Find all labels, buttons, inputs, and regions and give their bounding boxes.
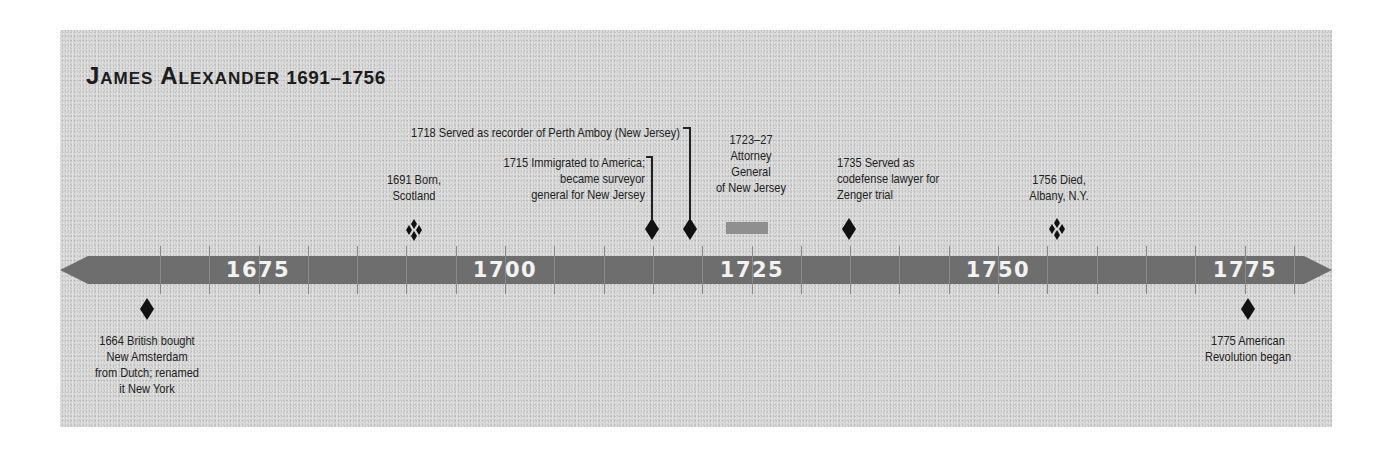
- diamond-marker-icon: [1241, 298, 1255, 320]
- axis-tick: [357, 246, 358, 294]
- event-1775: 1775 American Revolution began: [1192, 333, 1304, 365]
- axis-tick: [308, 246, 309, 294]
- diamond-marker-icon: [683, 218, 697, 240]
- axis-tick: [899, 246, 900, 294]
- title-name: James Alexander: [86, 62, 280, 89]
- leader-line-1718: [689, 127, 691, 219]
- axis-tick: [653, 246, 654, 294]
- event-1735: 1735 Served as codefense lawyer for Zeng…: [837, 155, 985, 203]
- axis-tick: [949, 246, 950, 294]
- axis-tick: [850, 246, 851, 294]
- axis-tick: [1097, 246, 1098, 294]
- diamond-cluster-icon: [1049, 218, 1065, 240]
- axis-tick: [160, 246, 161, 294]
- axis-tick: [702, 246, 703, 294]
- axis-tick: [1146, 246, 1147, 294]
- diamond-marker-icon: [842, 218, 856, 240]
- span-bar-1723-1727: [726, 222, 768, 234]
- axis-label-1775: 1775: [1213, 256, 1277, 284]
- axis-tick: [456, 246, 457, 294]
- diamond-marker-icon: [645, 218, 659, 240]
- event-1664: 1664 British bought New Amsterdam from D…: [87, 333, 207, 397]
- event-1691: 1691 Born, Scotland: [370, 172, 459, 204]
- axis-tick: [554, 246, 555, 294]
- event-1723-27: 1723–27 Attorney General of New Jersey: [706, 132, 796, 196]
- axis-tick: [209, 246, 210, 294]
- timeline-title: James Alexander 1691–1756: [86, 62, 386, 90]
- axis-label-1750: 1750: [966, 256, 1030, 284]
- axis-label-1725: 1725: [720, 256, 784, 284]
- event-1718: 1718 Served as recorder of Perth Amboy (…: [401, 125, 680, 141]
- axis-label-1700: 1700: [473, 256, 537, 284]
- axis-label-1675: 1675: [226, 256, 290, 284]
- diamond-cluster-icon: [406, 219, 422, 241]
- event-1756: 1756 Died, Albany, N.Y.: [1011, 172, 1108, 204]
- axis-tick: [1294, 246, 1295, 294]
- leader-line-1715: [651, 156, 653, 219]
- title-years: 1691–1756: [286, 67, 386, 88]
- axis-tick: [1047, 246, 1048, 294]
- diamond-marker-icon: [140, 298, 154, 320]
- axis-tick: [1195, 246, 1196, 294]
- axis-tick: [604, 246, 605, 294]
- axis-tick: [406, 246, 407, 294]
- axis-tick: [801, 246, 802, 294]
- event-1715: 1715 Immigrated to America; became surve…: [461, 155, 646, 203]
